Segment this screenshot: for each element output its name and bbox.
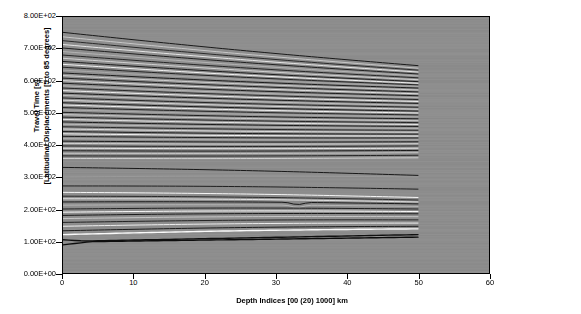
y-tick-label: 6.00E+02: [0, 76, 62, 85]
y-tick-mark: [56, 242, 62, 243]
y-tick-mark: [56, 177, 62, 178]
y-axis-label-line1: Travel Time [s]: [32, 80, 41, 132]
x-tick-mark: [276, 274, 277, 279]
y-tick-mark: [56, 113, 62, 114]
y-tick-mark: [56, 145, 62, 146]
y-tick-label: 0.00E+00: [0, 269, 62, 278]
x-tick-label: 0: [47, 278, 77, 287]
x-tick-mark: [205, 274, 206, 279]
y-tick-mark: [56, 48, 62, 49]
x-tick-mark: [490, 274, 491, 279]
x-tick-mark: [62, 274, 63, 279]
plot-canvas: [63, 17, 489, 273]
y-tick-label: 7.00E+02: [0, 43, 62, 52]
y-tick-label: 1.00E+02: [0, 237, 62, 246]
x-tick-mark: [419, 274, 420, 279]
y-tick-mark: [56, 81, 62, 82]
y-tick-label: 4.00E+02: [0, 140, 62, 149]
x-tick-label: 30: [261, 278, 291, 287]
plot-area: [62, 16, 490, 274]
y-tick-label: 8.00E+02: [0, 11, 62, 20]
x-tick-label: 60: [475, 278, 505, 287]
x-tick-label: 10: [118, 278, 148, 287]
x-tick-mark: [133, 274, 134, 279]
chart-figure: Travel Time [s] [Latitudinal Displacemen…: [0, 0, 581, 314]
y-tick-label: 5.00E+02: [0, 108, 62, 117]
x-tick-label: 20: [190, 278, 220, 287]
x-tick-label: 40: [332, 278, 362, 287]
y-tick-label: 2.00E+02: [0, 205, 62, 214]
y-tick-mark: [56, 16, 62, 17]
y-tick-mark: [56, 210, 62, 211]
y-tick-label: 3.00E+02: [0, 172, 62, 181]
x-axis-label: Depth Indices [00 (20) 1000] km: [62, 296, 522, 305]
x-tick-label: 50: [404, 278, 434, 287]
x-tick-mark: [347, 274, 348, 279]
